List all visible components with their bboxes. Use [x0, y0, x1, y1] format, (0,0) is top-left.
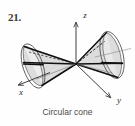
left-nappe	[16, 41, 76, 91]
right-generator-horizontal	[76, 63, 122, 64]
y-axis-label: y	[116, 95, 121, 105]
x-axis-label: x	[18, 87, 23, 97]
left-base-diameter	[24, 64, 44, 65]
figure-caption: Circular cone	[0, 108, 135, 117]
right-nappe	[76, 29, 131, 81]
cone-apex-point	[75, 63, 77, 65]
figure-container: 21.	[0, 0, 135, 126]
z-axis-label: z	[82, 10, 87, 20]
